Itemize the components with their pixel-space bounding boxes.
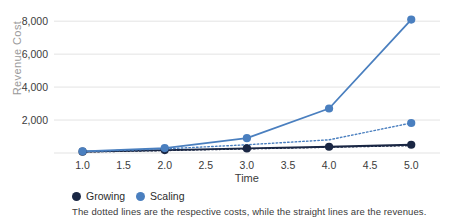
x-axis-tick-label: 1.0 (75, 159, 90, 171)
legend-item-growing[interactable]: Growing (72, 190, 125, 202)
y-axis-tick-label: 4,000 (22, 81, 48, 93)
series-lines (83, 20, 412, 152)
chart-caption: The dotted lines are the respective cost… (72, 206, 426, 217)
series-markers (78, 15, 415, 155)
chart-figure: Revenue Cost 2,0004,0006,0008,000 1.01.5… (0, 0, 453, 223)
y-axis-tick-label: 8,000 (22, 15, 48, 27)
data-point-scaling (407, 15, 415, 23)
x-axis-tick-label: 4.5 (363, 159, 378, 171)
legend-item-scaling[interactable]: Scaling (136, 190, 184, 202)
gridlines (54, 21, 440, 153)
chart-legend: Growing Scaling (72, 190, 185, 202)
x-axis-tick-label: 3.5 (281, 159, 296, 171)
x-axis-tick-label: 2.0 (157, 159, 172, 171)
x-axis-tick-label: 3.0 (240, 159, 255, 171)
data-point-scaling (243, 134, 251, 142)
x-axis-tick-label: 2.5 (198, 159, 213, 171)
data-point-growing (243, 144, 251, 152)
data-point-scaling (325, 104, 333, 112)
data-point-scaling (161, 144, 169, 152)
y-axis-tick-label: 6,000 (22, 48, 48, 60)
x-axis-tick-label: 5.0 (404, 159, 419, 171)
data-point-scaling (78, 147, 86, 155)
y-axis-tick-label: 2,000 (22, 114, 48, 126)
y-axis-tick-labels: 2,0004,0006,0008,000 (22, 15, 48, 126)
legend-color-swatch-growing (72, 192, 81, 201)
data-point-growing (407, 141, 415, 149)
series-line-scaling-revenue (83, 20, 412, 152)
legend-label-growing: Growing (86, 190, 125, 202)
legend-color-swatch-scaling (136, 192, 145, 201)
x-axis-title: Time (235, 172, 259, 184)
data-point-growing (325, 143, 333, 151)
legend-label-scaling: Scaling (150, 190, 184, 202)
x-axis-tick-label: 1.5 (116, 159, 131, 171)
x-axis-tick-labels: 1.01.52.02.53.03.54.04.55.0 (75, 159, 418, 171)
line-chart-plot: 2,0004,0006,0008,000 1.01.52.02.53.03.54… (0, 0, 453, 186)
data-point-scaling-cost (407, 119, 415, 127)
x-axis-tick-label: 4.0 (322, 159, 337, 171)
